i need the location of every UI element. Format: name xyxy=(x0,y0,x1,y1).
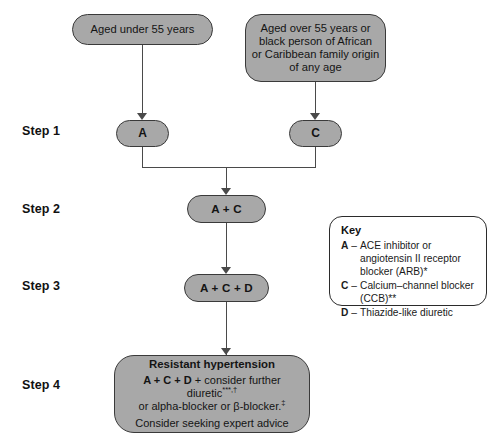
flowchart-canvas: Step 1 Step 2 Step 3 Step 4 Aged under 5… xyxy=(0,0,496,444)
step4-alternative-superscript: ‡ xyxy=(281,399,285,408)
criteria-right-line-1: Aged over 55 years or xyxy=(246,22,385,35)
key-item-a-dash: – xyxy=(351,239,357,278)
criteria-right-line-3: or Caribbean family origin xyxy=(246,48,385,61)
node-step3-label: A + C + D xyxy=(185,281,268,295)
key-item-c-letter: C xyxy=(341,279,348,305)
key-legend-box: Key A – ACE inhibitor or angiotensin II … xyxy=(329,216,487,306)
node-drug-c-label: C xyxy=(290,126,341,140)
step-label-2: Step 2 xyxy=(22,202,60,216)
criteria-right-line-4: of any age xyxy=(246,61,385,74)
key-item-a-text: ACE inhibitor or angiotensin II receptor… xyxy=(360,239,477,278)
step-label-3: Step 3 xyxy=(22,279,60,293)
step4-regimen-bold: A + C + D xyxy=(143,374,192,386)
step4-expert-advice: Consider seeking expert advice xyxy=(121,417,303,430)
key-item-d-dash: – xyxy=(351,306,357,319)
step-label-4: Step 4 xyxy=(22,378,60,392)
step4-regimen-superscript: ***,† xyxy=(222,386,237,395)
node-drug-c: C xyxy=(289,120,342,147)
step4-title: Resistant hypertension xyxy=(121,358,303,371)
key-item-a: A – ACE inhibitor or angiotensin II rece… xyxy=(341,239,477,278)
key-item-d-text: Thiazide-like diuretic xyxy=(360,306,477,319)
step-label-1: Step 1 xyxy=(22,124,60,138)
node-step3-a-plus-c-plus-d: A + C + D xyxy=(184,274,269,302)
arrowhead-to-step4 xyxy=(221,348,231,355)
node-step2-label: A + C xyxy=(188,202,265,216)
key-item-c: C – Calcium–channel blocker (CCB)** xyxy=(341,279,477,305)
connector-c-down xyxy=(315,147,316,168)
arrowhead-to-c xyxy=(310,113,320,120)
arrowhead-to-step2 xyxy=(221,188,231,195)
step4-regimen-line: A + C + D + consider further diuretic***… xyxy=(121,374,303,400)
connector-left-criteria-to-a xyxy=(142,45,143,118)
node-drug-a-label: A xyxy=(117,126,168,140)
connector-merge-horizontal xyxy=(142,167,316,168)
connector-step2-to-step3 xyxy=(226,223,227,272)
key-item-a-letter: A xyxy=(341,239,348,278)
key-item-c-dash: – xyxy=(351,279,357,305)
criteria-right-line-2: black person of African xyxy=(246,35,385,48)
criteria-box-over-55-or-african-caribbean: Aged over 55 years or black person of Af… xyxy=(245,14,386,82)
key-item-d-letter: D xyxy=(341,306,348,319)
criteria-left-line-1: Aged under 55 years xyxy=(73,23,212,36)
key-item-c-text: Calcium–channel blocker (CCB)** xyxy=(360,279,477,305)
arrowhead-to-step3 xyxy=(221,267,231,274)
step4-alternative-line: or alpha-blocker or β-blocker.‡ xyxy=(121,400,303,413)
connector-a-down xyxy=(142,147,143,168)
node-step4-resistant-hypertension: Resistant hypertension A + C + D + consi… xyxy=(114,355,310,433)
criteria-box-under-55: Aged under 55 years xyxy=(72,14,213,45)
arrowhead-to-a xyxy=(137,113,147,120)
key-item-d: D – Thiazide-like diuretic xyxy=(341,306,477,319)
key-title: Key xyxy=(341,224,477,236)
node-drug-a: A xyxy=(116,120,169,147)
node-step2-a-plus-c: A + C xyxy=(187,195,266,223)
step4-alternative-text: or alpha-blocker or β-blocker. xyxy=(139,400,282,412)
